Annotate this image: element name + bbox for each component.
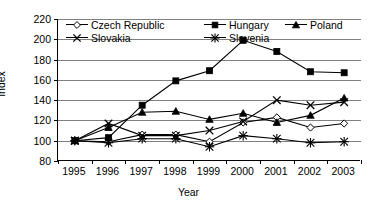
- data-point: [341, 120, 348, 127]
- legend-row: SlovakiaSlovenia: [66, 31, 356, 44]
- data-point: [171, 134, 181, 144]
- legend-marker-triangle-filled-icon: [285, 24, 307, 25]
- x-axis-tick-label: 1995: [62, 165, 85, 177]
- data-point: [339, 137, 349, 147]
- legend-marker-diamond-open-icon: [66, 24, 88, 25]
- x-axis-title: Year: [0, 186, 377, 198]
- y-axis-title: Index: [0, 71, 7, 97]
- legend-label: Czech Republic: [91, 19, 165, 31]
- data-point: [173, 78, 179, 84]
- data-point: [70, 136, 80, 146]
- y-axis-tick-label: 80: [39, 155, 51, 167]
- legend-row: Czech RepublicHungaryPoland: [66, 18, 356, 31]
- legend-item-hungary[interactable]: Hungary: [204, 19, 271, 31]
- data-point: [341, 70, 347, 76]
- data-point: [274, 48, 280, 54]
- data-point: [306, 138, 316, 148]
- x-axis-tick: [361, 160, 362, 164]
- data-point: [239, 110, 246, 117]
- x-axis-tick-label: 1997: [129, 165, 152, 177]
- data-point: [207, 68, 213, 74]
- data-point: [139, 102, 145, 108]
- line-chart: 80100120140160180200220 Index 1995199619…: [0, 0, 377, 214]
- data-point: [104, 138, 114, 148]
- legend-label: Slovenia: [229, 32, 269, 44]
- chart-legend: Czech RepublicHungaryPolandSlovakiaSlove…: [66, 18, 356, 44]
- legend-item-czech-republic[interactable]: Czech Republic: [66, 19, 167, 31]
- x-axis-tick-label: 1998: [163, 165, 186, 177]
- data-point: [307, 124, 314, 131]
- x-axis-tick-label: 2002: [298, 165, 321, 177]
- x-axis-tick-label: 2000: [230, 165, 253, 177]
- y-axis-tick-label: 140: [33, 94, 51, 106]
- y-axis-tick-label: 220: [33, 13, 51, 25]
- y-axis-tick-label: 160: [33, 74, 51, 86]
- y-axis-tick-labels: 80100120140160180200220: [0, 19, 55, 161]
- y-axis-tick: [54, 161, 58, 162]
- legend-item-poland[interactable]: Poland: [285, 19, 345, 31]
- legend-item-slovenia[interactable]: Slovenia: [204, 32, 271, 44]
- series-hungary: [72, 37, 347, 143]
- data-point: [308, 69, 314, 75]
- y-axis-tick-label: 100: [33, 135, 51, 147]
- legend-marker-cross-x-icon: [66, 37, 88, 38]
- data-point: [238, 131, 248, 141]
- x-axis-tick-label: 2003: [331, 165, 354, 177]
- data-point: [137, 134, 147, 144]
- data-point: [307, 112, 314, 119]
- legend-label: Slovakia: [91, 32, 131, 44]
- y-axis-tick-label: 120: [33, 114, 51, 126]
- x-axis-tick-label: 2001: [264, 165, 287, 177]
- legend-marker-square-filled-icon: [204, 24, 226, 25]
- x-axis-tick-label: 1999: [197, 165, 220, 177]
- legend-marker-asterisk-icon: [204, 37, 226, 38]
- x-axis-tick-label: 1996: [96, 165, 119, 177]
- data-point: [205, 142, 215, 152]
- legend-item-slovakia[interactable]: Slovakia: [66, 32, 133, 44]
- data-point: [272, 134, 282, 144]
- legend-label: Poland: [310, 19, 343, 31]
- y-axis-tick-label: 200: [33, 33, 51, 45]
- legend-label: Hungary: [229, 19, 269, 31]
- y-axis-tick-label: 180: [33, 54, 51, 66]
